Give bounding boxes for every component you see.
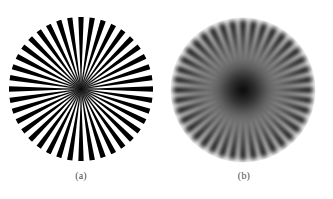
figure-panel: (a) (b) [0,0,333,199]
figure-a-caption: (a) [36,170,126,181]
figure-a-siemens-star [6,13,156,165]
siemens-star-canvas-a [6,13,156,165]
figure-b-siemens-star [169,15,317,165]
siemens-star-canvas-b [169,15,317,165]
figure-b-caption: (b) [199,170,289,181]
